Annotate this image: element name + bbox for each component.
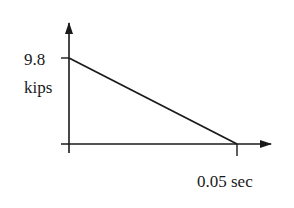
duration-label: 0.05 sec	[197, 172, 253, 191]
peak-unit-label: kips	[24, 78, 52, 97]
load-line	[69, 58, 237, 144]
peak-value-label: 9.8	[24, 50, 45, 69]
load-time-diagram: 9.8 kips 0.05 sec	[0, 0, 294, 208]
